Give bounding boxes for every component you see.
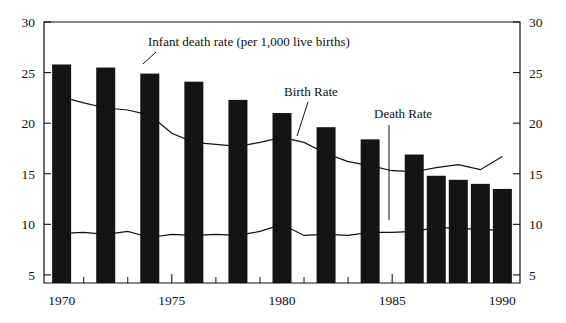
annotation-leader-line <box>143 52 156 64</box>
y-tick-label-right: 20 <box>529 116 543 131</box>
y-tick-label-right: 10 <box>529 217 543 232</box>
y-axis-labels-left: 51015202530 <box>22 15 36 283</box>
annotation-label: Death Rate <box>374 106 432 121</box>
y-tick-label-right: 5 <box>529 268 536 283</box>
bar <box>427 176 446 283</box>
x-tick-label: 1985 <box>379 293 406 308</box>
x-tick-label: 1970 <box>48 293 75 308</box>
bar <box>140 74 159 283</box>
bar <box>493 189 512 283</box>
annotation-label: Infant death rate (per 1,000 live births… <box>148 34 350 49</box>
y-tick-label-left: 25 <box>22 66 36 81</box>
y-tick-label-left: 5 <box>28 268 35 283</box>
y-tick-label-right: 30 <box>529 15 543 30</box>
chart-figure: 51015202530 51015202530 1970197519801985… <box>0 0 566 323</box>
y-tick-label-left: 15 <box>22 167 36 182</box>
bar <box>184 82 203 283</box>
x-tick-label: 1990 <box>489 293 516 308</box>
bar <box>449 180 468 283</box>
bar <box>471 184 490 283</box>
y-tick-label-left: 30 <box>22 15 36 30</box>
y-tick-label-left: 20 <box>22 116 36 131</box>
x-tick-label: 1975 <box>158 293 185 308</box>
bar <box>228 100 247 283</box>
bar-series-infant-death-rate <box>52 64 512 283</box>
bar <box>361 139 380 283</box>
x-tick-label: 1980 <box>269 293 296 308</box>
y-tick-label-right: 15 <box>529 167 543 182</box>
annotation-label: Birth Rate <box>284 84 338 99</box>
y-axis-labels-right: 51015202530 <box>529 15 543 283</box>
y-tick-label-left: 10 <box>22 217 36 232</box>
y-tick-label-right: 25 <box>529 66 543 81</box>
chart-canvas: 51015202530 51015202530 1970197519801985… <box>0 0 566 323</box>
annotation-leader-line <box>297 102 308 136</box>
bar <box>96 68 115 283</box>
x-axis-labels: 19701975198019851990 <box>48 293 516 308</box>
bar <box>405 155 424 283</box>
